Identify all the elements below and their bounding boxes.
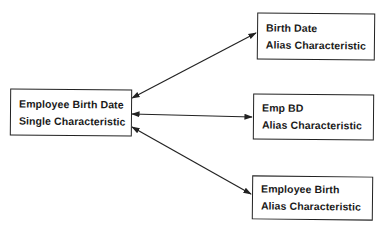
- node-title: Emp BD: [262, 100, 373, 118]
- node-birth-date-alias: Birth Date Alias Characteristic: [257, 12, 375, 60]
- node-emp-bd-alias: Emp BD Alias Characteristic: [253, 93, 374, 140]
- node-type: Single Characteristic: [19, 112, 131, 130]
- node-title: Employee Birth: [261, 180, 372, 198]
- node-employee-birth-date: Employee Birth Date Single Characteristi…: [10, 88, 132, 136]
- node-type: Alias Characteristic: [266, 36, 374, 54]
- edge-main-to-birth-date: [132, 33, 256, 98]
- edge-main-to-employee-birth: [132, 127, 251, 194]
- edge-main-to-emp-bd: [132, 114, 252, 117]
- node-type: Alias Characteristic: [261, 197, 372, 215]
- node-employee-birth-alias: Employee Birth Alias Characteristic: [252, 175, 373, 220]
- node-type: Alias Characteristic: [262, 117, 373, 135]
- diagram-canvas: Employee Birth Date Single Characteristi…: [0, 0, 385, 229]
- node-title: Birth Date: [266, 19, 374, 37]
- node-title: Employee Birth Date: [19, 95, 131, 113]
